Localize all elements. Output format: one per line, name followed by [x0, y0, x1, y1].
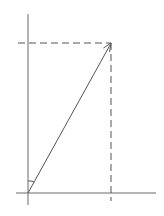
vector-line — [28, 45, 110, 193]
angle-arc-marker — [28, 181, 34, 182]
vector-component-diagram — [0, 0, 164, 216]
